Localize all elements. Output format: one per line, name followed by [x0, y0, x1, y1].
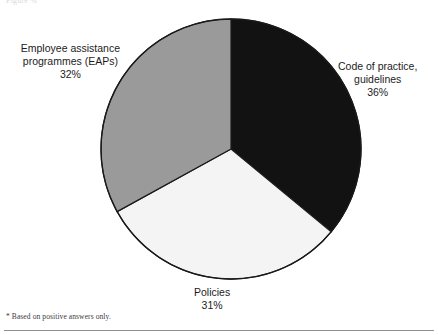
pie-label-code-of-practice: Code of practice, guidelines 36%: [338, 60, 417, 99]
pie-chart-figure: Figure % Employee assistance programmes …: [0, 0, 438, 335]
pie-label-eaps: Employee assistance programmes (EAPs) 32…: [21, 42, 120, 81]
pie-label-code-line2: guidelines: [338, 73, 417, 86]
pie-label-eaps-line1: Employee assistance: [21, 42, 120, 55]
pie-label-policies-value: 31%: [194, 299, 230, 312]
pie-label-policies-line1: Policies: [194, 286, 230, 299]
figure-footnote: * Based on positive answers only.: [6, 312, 111, 322]
pie-label-code-line1: Code of practice,: [338, 60, 417, 73]
pie-label-eaps-line2: programmes (EAPs): [21, 55, 120, 68]
bottom-horizontal-rule: [4, 330, 434, 331]
chart-plot-area: Employee assistance programmes (EAPs) 32…: [0, 0, 438, 306]
pie-label-code-value: 36%: [338, 86, 417, 99]
pie-label-eaps-value: 32%: [21, 68, 120, 81]
pie-label-policies: Policies 31%: [194, 286, 230, 312]
